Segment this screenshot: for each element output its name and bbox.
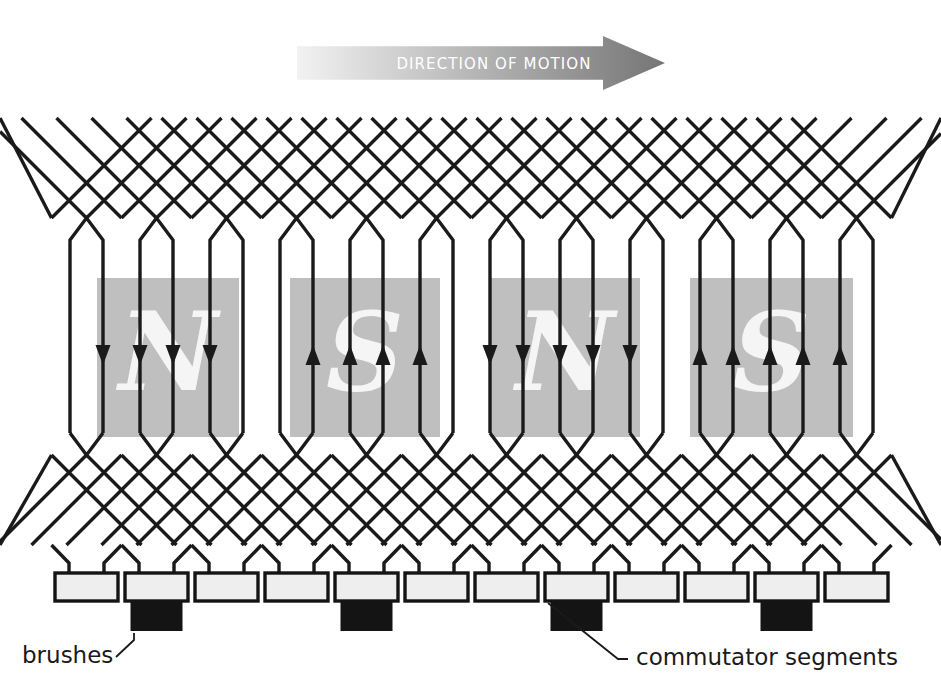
diagram-canvas: DIRECTION OF MOTION NSNS brushes commuta… <box>0 0 941 700</box>
commutator-segment-11[interactable] <box>755 573 818 601</box>
commutator-segment-5[interactable] <box>335 573 398 601</box>
motion-arrow-label: DIRECTION OF MOTION <box>396 55 591 73</box>
commutator-segment-9[interactable] <box>615 573 678 601</box>
pole-face-north-0: N <box>97 278 239 437</box>
commutator-segment-3[interactable] <box>195 573 258 601</box>
commutator-segment-7[interactable] <box>475 573 538 601</box>
brushes-label: brushes <box>22 642 113 668</box>
commutator-segment-6[interactable] <box>405 573 468 601</box>
lap-winding-figure: DIRECTION OF MOTION NSNS brushes commuta… <box>0 0 941 700</box>
pole-letter: N <box>513 289 619 415</box>
commutator-segment-2[interactable] <box>125 573 188 601</box>
brush-on-segment-11[interactable] <box>761 601 813 631</box>
commutator-segment-1[interactable] <box>55 573 118 601</box>
pole-face-north-2: N <box>490 278 640 437</box>
commutator-segment-10[interactable] <box>685 573 748 601</box>
commutator-segment-12[interactable] <box>825 573 888 601</box>
commutator-segment-8[interactable] <box>545 573 608 601</box>
brush-on-segment-2[interactable] <box>131 601 183 631</box>
pole-letter: S <box>326 289 404 415</box>
commutator-segments-label: commutator segments <box>636 644 898 670</box>
commutator-segment-4[interactable] <box>265 573 328 601</box>
brush-on-segment-5[interactable] <box>341 601 393 631</box>
